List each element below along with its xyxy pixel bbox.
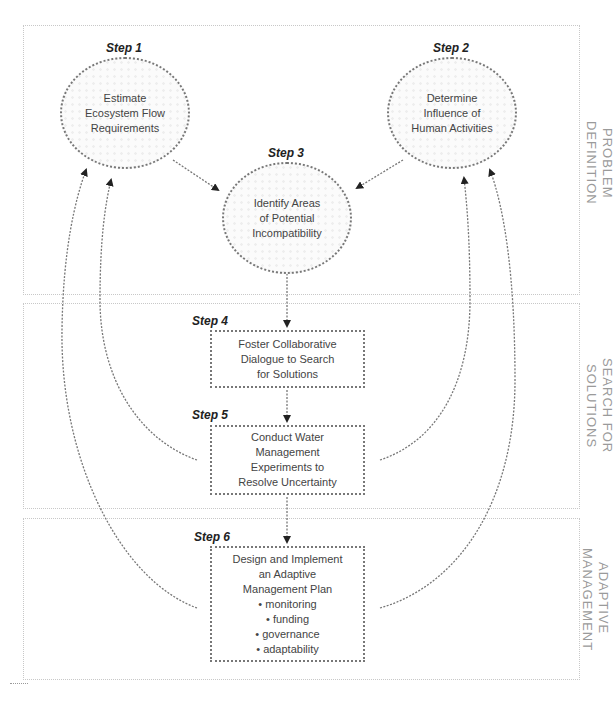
step-5-text-line: Conduct Water: [251, 430, 324, 445]
step-4-label: Step 4: [192, 314, 228, 328]
step-1-text-line: Estimate: [85, 91, 165, 106]
step-3-text-line: of Potential: [252, 211, 322, 226]
step-3-text-line: Incompatibility: [252, 226, 322, 241]
step-5-label: Step 5: [192, 408, 228, 422]
step-4-text-line: Foster Collaborative: [238, 337, 336, 352]
step-3-ellipse: Identify Areas of Potential Incompatibil…: [222, 162, 352, 274]
step-6-text-line: an Adaptive: [259, 567, 317, 582]
arrow-step6-to-step1: [62, 170, 197, 608]
step-5-text-line: Resolve Uncertainty: [238, 475, 336, 490]
step-3-label: Step 3: [268, 146, 304, 160]
arrow-step5-to-step1: [100, 180, 197, 460]
step-1-label: Step 1: [106, 41, 142, 55]
step-1-ellipse: Estimate Ecosystem Flow Requirements: [60, 57, 190, 169]
step-6-text-line: Design and Implement: [232, 552, 342, 567]
step-1-text-line: Ecosystem Flow: [85, 106, 165, 121]
step-6-bullet-funding: • funding: [266, 612, 309, 627]
step-6-text-line: Management Plan: [243, 582, 332, 597]
step-2-text-line: Determine: [411, 91, 492, 106]
step-5-text-line: Experiments to: [251, 460, 324, 475]
footer-mark: [10, 683, 28, 684]
step-4-text-line: Dialogue to Search: [241, 352, 335, 367]
step-6-bullet-adaptability: • adaptability: [256, 642, 319, 657]
step-2-ellipse: Determine Influence of Human Activities: [387, 57, 517, 169]
step-6-bullet-governance: • governance: [255, 627, 319, 642]
step-6-box: Design and Implement an Adaptive Managem…: [210, 546, 365, 662]
step-5-text-line: Management: [255, 445, 319, 460]
step-2-text-line: Influence of: [411, 106, 492, 121]
step-1-text-line: Requirements: [85, 121, 165, 136]
step-5-box: Conduct Water Management Experiments to …: [210, 425, 365, 495]
step-2-text-line: Human Activities: [411, 121, 492, 136]
arrow-step5-to-step2: [380, 178, 470, 460]
step-4-text-line: for Solutions: [257, 367, 318, 382]
step-6-label: Step 6: [194, 530, 230, 544]
step-6-bullet-monitoring: • monitoring: [258, 597, 316, 612]
step-2-label: Step 2: [433, 41, 469, 55]
step-3-text-line: Identify Areas: [252, 196, 322, 211]
arrow-step6-to-step2: [380, 170, 515, 608]
step-4-box: Foster Collaborative Dialogue to Search …: [210, 330, 365, 388]
arrow-step2-to-step3: [357, 160, 403, 188]
arrow-step1-to-step3: [173, 160, 218, 190]
